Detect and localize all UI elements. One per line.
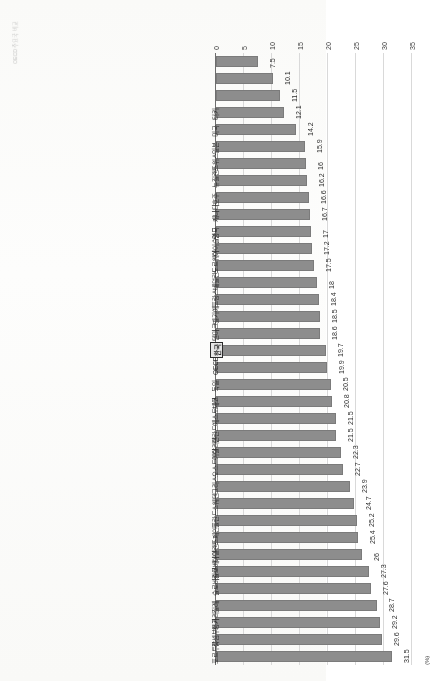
chart-bar-row: 19.9OECD 평균 [16,359,308,376]
chart-bar-row: 16.2뉴질랜드 [16,172,308,189]
bar-value-label: 29.6 [393,632,400,646]
bar-value-label: 24.7 [365,496,372,510]
category-label: 그리스 [210,476,220,493]
chart-bar [216,532,358,543]
bar-value-label: 15.9 [316,139,323,153]
bar-value-label: 20.5 [342,377,349,391]
chart-bar [216,617,380,628]
chart-bar [216,396,332,407]
bar-value-label: 12.1 [295,105,302,119]
category-label: 폴란드 [210,510,220,527]
chart-bar [216,260,314,271]
chart-bar [216,362,327,373]
bar-value-label: 16.6 [320,190,327,204]
axis-tick-label: 15 [297,42,304,50]
category-label: 호주 [210,193,220,205]
chart-bar-row: 25.2폴란드 [16,512,308,529]
chart-bar [216,141,305,152]
chart-bar [216,515,357,526]
chart-bar-row: 16스위스 [16,155,308,172]
chart-bar [216,243,312,254]
bar-value-label: 19.7 [337,343,344,357]
bar-value-label: 22.3 [352,445,359,459]
chart-bar [216,209,310,220]
bar-value-label: 14.2 [307,122,314,136]
chart-bar [216,481,350,492]
bar-value-label: 31.5 [403,649,410,663]
chart-bar-row: 22.3이탈리아 [16,444,308,461]
chart-bar-row: 27.6슬로바키아 [16,580,308,597]
chart-bar-row: 20.8체코 [16,393,308,410]
chart-bar-row: 21.5핀란드 [16,427,308,444]
bar-value-label: 25.4 [369,530,376,544]
chart-bar-row: 24.7스웨덴 [16,495,308,512]
chart-bar-row: 22.7오스트리아 [16,461,308,478]
chart-bar-row: 18.6덴마크 [16,325,308,342]
bar-value-label: 16 [317,162,324,170]
bar-value-label: 26 [373,553,380,561]
bar-value-label: 18 [328,281,335,289]
bar-value-label: 27.6 [382,581,389,595]
chart-bar [216,226,311,237]
bar-value-label: 17 [322,230,329,238]
bar-value-label: 18.6 [331,326,338,340]
chart-bar [216,413,336,424]
category-label: 한국 [210,342,223,358]
chart-bar [216,175,307,186]
chart-bar [216,634,382,645]
category-label: 일본 [210,142,220,154]
axis-tick-label: 35 [409,42,416,50]
axis-unit-label: (%) [424,656,430,665]
chart-bar [216,277,317,288]
chart-bar-row: 18.4프랑스 [16,291,308,308]
chart-bar [216,73,273,84]
chart-bar [216,379,331,390]
bar-value-label: 19.9 [338,360,345,374]
category-label: 영국 [210,227,220,239]
chart-bar [216,294,319,305]
bar-value-label: 27.3 [380,564,387,578]
bar-value-label: 21.5 [347,428,354,442]
category-label: 핀란드 [210,425,220,442]
axis-tick-label: 5 [241,46,248,50]
chart-bar [216,124,296,135]
chart-bar-row: 7.5 [16,53,308,70]
axis-tick-label: 0 [213,46,220,50]
category-label: 캐나다 [210,204,220,221]
chart-bar-row: 31.5포르투갈 [16,648,308,665]
chart-bar [216,464,343,475]
category-label: 스위스 [210,153,220,170]
chart-bar-row: 27.3슬로베니아 [16,563,308,580]
chart-bar [216,651,392,662]
chart-bar [216,56,258,67]
chart-bar-row: 17영국 [16,223,308,240]
axis-tick-label: 10 [269,42,276,50]
chart-bar-row: 23.9그리스 [16,478,308,495]
chart-bar [216,549,362,560]
bar-value-label: 23.9 [361,479,368,493]
axis-tick-label: 30 [381,42,388,50]
bar-value-label: 18.5 [331,309,338,323]
bar-value-label: 16.7 [321,207,328,221]
bar-chart: (%)05101520253035 31.5포르투갈29.6룩셈부르크29.2헝… [16,15,308,665]
chart-bar-row: 21.5에스토니아 [16,410,308,427]
chart-bar [216,430,336,441]
bar-value-label: 17.2 [323,241,330,255]
bar-value-label: 20.8 [343,394,350,408]
chart-bar-row: 18네덜란드 [16,274,308,291]
chart-bar [216,107,284,118]
bar-value-label: 22.7 [354,462,361,476]
category-label: 칠레 [210,601,220,613]
chart-bar-row: 26아일랜드 [16,546,308,563]
chart-bar-row: 12.1터키 [16,104,308,121]
axis-tick-label: 25 [353,42,360,50]
chart-bar-row: 28.7칠레 [16,597,308,614]
category-label: 독일 [210,380,220,392]
chart-bar [216,192,309,203]
chart-bar [216,158,306,169]
bar-value-label: 21.5 [347,411,354,425]
category-label: 스웨덴 [210,493,220,510]
chart-bar-row: 17.2아이슬란드 [16,240,308,257]
bar-value-label: 17.5 [325,258,332,272]
chart-bar-row: 25.4스페인 [16,529,308,546]
